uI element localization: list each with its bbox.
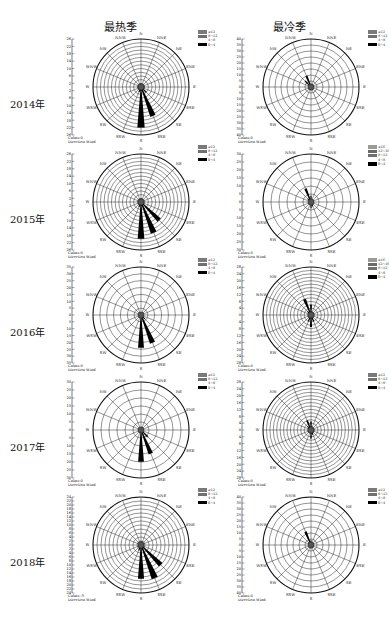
legend-item: 0~4 — [368, 501, 387, 505]
svg-text:4: 4 — [239, 421, 242, 425]
legend-swatch — [198, 488, 207, 491]
svg-text:25: 25 — [236, 573, 241, 577]
svg-text:25: 25 — [66, 468, 71, 472]
legend-swatch — [368, 39, 377, 42]
svg-text:S: S — [140, 596, 143, 601]
svg-text:15: 15 — [66, 404, 71, 408]
speed-legend: ≥1612~168~124~80~4 — [368, 258, 389, 279]
svg-text:NE: NE — [176, 389, 182, 394]
svg-text:25: 25 — [236, 513, 241, 517]
calms-note: Calms:0Direction Wind — [238, 364, 266, 373]
svg-text:5: 5 — [239, 549, 242, 553]
legend-swatch — [368, 263, 377, 266]
svg-text:NE: NE — [346, 46, 352, 51]
svg-text:E: E — [193, 542, 196, 547]
svg-text:5: 5 — [239, 537, 242, 541]
svg-text:5: 5 — [239, 91, 242, 95]
svg-text:0: 0 — [239, 313, 242, 317]
legend-label: 0~4 — [208, 43, 215, 47]
svg-text:W: W — [86, 312, 90, 317]
wind-rose-hottest-2015: 262218141062261014182226NNNENEENEEESESES… — [58, 145, 218, 260]
legend-swatch — [368, 30, 377, 33]
svg-text:30: 30 — [236, 121, 241, 125]
svg-text:35: 35 — [66, 265, 71, 269]
svg-text:SSE: SSE — [327, 477, 335, 482]
svg-text:ENE: ENE — [186, 522, 195, 527]
svg-text:NNE: NNE — [157, 35, 167, 40]
svg-text:15: 15 — [236, 561, 241, 565]
svg-text:35: 35 — [236, 501, 241, 505]
svg-text:NNE: NNE — [157, 263, 167, 268]
svg-text:SSE: SSE — [327, 134, 335, 139]
svg-text:14: 14 — [66, 59, 71, 63]
svg-text:20: 20 — [236, 567, 241, 571]
wind-rose-hottest-2018: 2422201816141210864202468101214161820222… — [58, 488, 218, 603]
year-label: 2015年 — [10, 211, 45, 226]
legend-swatch — [198, 271, 207, 274]
svg-text:ENE: ENE — [356, 292, 365, 297]
svg-text:35: 35 — [236, 43, 241, 47]
legend-swatch — [198, 382, 207, 385]
svg-text:SE: SE — [346, 122, 352, 127]
svg-text:SE: SE — [346, 465, 352, 470]
svg-text:28: 28 — [236, 380, 241, 384]
svg-text:SSE: SSE — [327, 362, 335, 367]
svg-text:12: 12 — [236, 334, 241, 338]
svg-text:NW: NW — [99, 389, 106, 394]
svg-text:30: 30 — [66, 380, 71, 384]
calms-note: Calms:0Direction Wind — [68, 136, 96, 145]
legend-swatch — [368, 386, 377, 389]
svg-text:18: 18 — [66, 167, 71, 171]
svg-text:E: E — [193, 199, 196, 204]
svg-text:SW: SW — [100, 237, 107, 242]
svg-text:10: 10 — [66, 182, 71, 186]
svg-text:10: 10 — [66, 219, 71, 223]
calms-note: Calms:0Direction Wind — [238, 594, 266, 603]
svg-text:5: 5 — [239, 208, 242, 212]
svg-text:WNW: WNW — [86, 407, 97, 412]
svg-text:2: 2 — [69, 204, 71, 208]
direction-wind-label: Direction Wind — [68, 598, 96, 602]
svg-text:2: 2 — [69, 197, 71, 201]
legend-swatch — [368, 488, 377, 491]
svg-text:SE: SE — [346, 350, 352, 355]
svg-text:22: 22 — [66, 241, 71, 245]
svg-text:10: 10 — [66, 412, 71, 416]
svg-text:SSW: SSW — [286, 362, 295, 367]
svg-text:E: E — [363, 84, 366, 89]
svg-text:NNW: NNW — [285, 263, 296, 268]
svg-text:18: 18 — [66, 119, 71, 123]
svg-text:0: 0 — [239, 85, 242, 89]
svg-text:NE: NE — [176, 161, 182, 166]
legend-item: 0~4 — [198, 386, 217, 390]
svg-text:15: 15 — [66, 334, 71, 338]
svg-text:NNW: NNW — [115, 35, 126, 40]
svg-text:SW: SW — [270, 122, 277, 127]
svg-text:W: W — [86, 84, 90, 89]
svg-text:NNW: NNW — [285, 378, 296, 383]
legend-item: 0~4 — [368, 275, 389, 279]
svg-text:SW: SW — [100, 122, 107, 127]
svg-text:18: 18 — [66, 234, 71, 238]
svg-text:35: 35 — [236, 127, 241, 131]
svg-text:SW: SW — [100, 580, 107, 585]
legend-item: 0~4 — [198, 158, 217, 162]
svg-text:10: 10 — [66, 444, 71, 448]
legend-label: 0~4 — [378, 43, 385, 47]
svg-text:5: 5 — [69, 420, 72, 424]
legend-item: 0~4 — [368, 386, 387, 390]
svg-text:NNE: NNE — [327, 263, 337, 268]
speed-legend: ≥128~124~80~4 — [198, 488, 217, 505]
legend-label: 0~4 — [208, 158, 215, 162]
svg-text:NW: NW — [269, 46, 276, 51]
svg-text:W: W — [256, 542, 260, 547]
legend-swatch — [198, 493, 207, 496]
svg-text:N: N — [139, 259, 143, 264]
svg-text:SSE: SSE — [327, 592, 335, 597]
legend-swatch — [198, 145, 207, 148]
direction-wind-label: Direction Wind — [238, 598, 266, 602]
svg-text:2: 2 — [69, 89, 71, 93]
svg-text:30: 30 — [66, 354, 71, 358]
svg-text:NE: NE — [346, 274, 352, 279]
svg-text:WSW: WSW — [86, 448, 97, 453]
